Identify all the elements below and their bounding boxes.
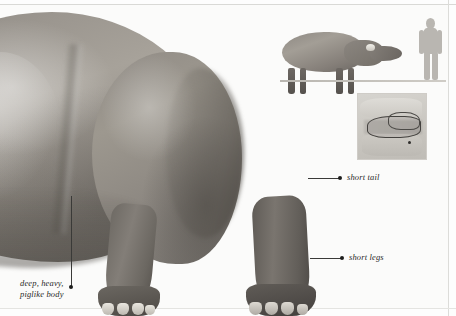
toenail-icon [249, 302, 262, 315]
scale-human-silhouette [418, 18, 442, 80]
human-arm [419, 30, 424, 54]
scale-animal-silhouette [282, 30, 398, 78]
scale-comparison-inset [278, 14, 448, 86]
toenail-icon [145, 305, 155, 315]
leader-line-short-legs [310, 258, 342, 259]
animal-hind-foot [246, 284, 316, 316]
toenail-icon [102, 303, 114, 315]
toenail-icon [281, 302, 294, 315]
human-torso [423, 28, 438, 54]
scale-ground-line [280, 80, 446, 82]
label-body-build: deep, heavy, piglike body [20, 278, 68, 300]
scale-animal-eye [366, 44, 375, 51]
toenail-icon [297, 304, 308, 315]
leader-line-short-tail [308, 178, 340, 179]
toenail-icon [132, 303, 144, 315]
page-frame-top [0, 4, 456, 5]
page-frame-bottom [0, 308, 456, 309]
label-short-legs: short legs [349, 252, 384, 263]
human-leg [424, 52, 430, 80]
toenail-icon [265, 302, 278, 315]
leader-dot-body-build [69, 285, 73, 289]
leader-dot-short-legs [340, 256, 344, 260]
animal-rump-shading [166, 68, 244, 238]
leader-dot-short-tail [338, 176, 342, 180]
animal-front-foot [98, 286, 160, 316]
toenail-icon [117, 303, 129, 315]
label-short-tail: short tail [347, 172, 379, 183]
leader-line-body-build [71, 196, 72, 287]
map-locality-dot [408, 141, 411, 144]
map-range-outline-secondary [388, 112, 420, 130]
human-leg [432, 52, 438, 80]
distribution-map-inset [357, 93, 427, 160]
human-arm [437, 30, 442, 54]
page-frame-right [448, 0, 449, 316]
illustration-page: short tail short legs deep, heavy, pigli… [0, 0, 456, 316]
